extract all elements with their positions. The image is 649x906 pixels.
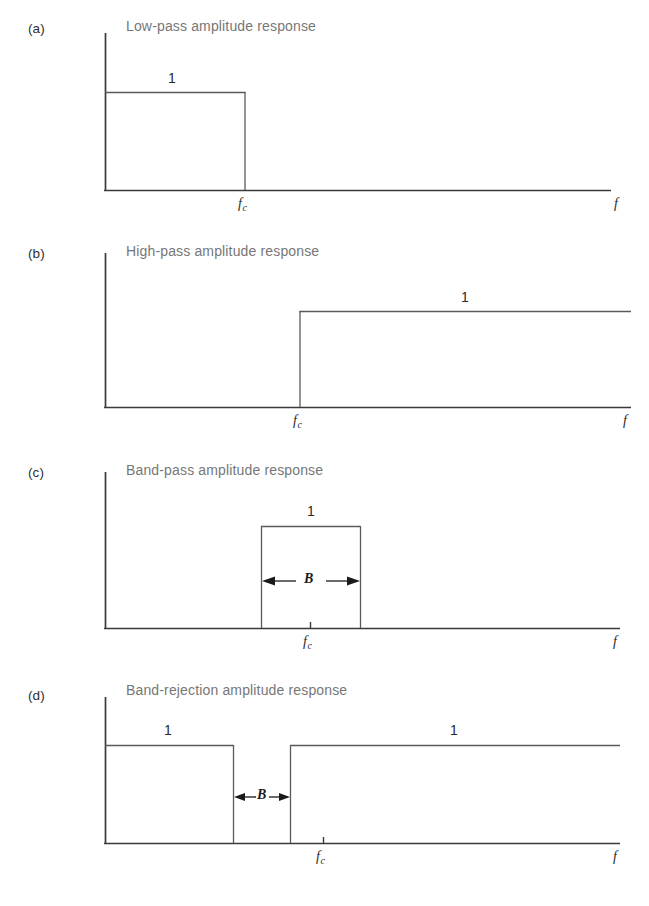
filter-response-figure: (a) Low-pass amplitude response 1 fc f (… xyxy=(0,0,649,906)
cutoff-label-b: fc xyxy=(293,413,302,430)
amplitude-label-d-right: 1 xyxy=(446,722,462,738)
cutoff-label-a: fc xyxy=(238,196,247,213)
cutoff-sub-a: c xyxy=(242,202,246,213)
panel-low-pass: (a) Low-pass amplitude response 1 fc f xyxy=(0,0,649,225)
plot-band-rejection xyxy=(0,675,649,906)
bandwidth-arrow-right-c xyxy=(326,577,360,586)
freq-axis-label-c: f xyxy=(613,634,617,650)
bandwidth-arrow-left-c xyxy=(262,577,296,586)
freq-axis-label-b: f xyxy=(623,413,627,429)
bandwidth-arrow-left-d xyxy=(234,793,256,801)
amplitude-label-c: 1 xyxy=(303,503,319,519)
cutoff-label-c: fc xyxy=(303,634,312,651)
panel-high-pass: (b) High-pass amplitude response 1 fc f xyxy=(0,225,649,450)
bandwidth-arrow-right-d xyxy=(269,793,290,801)
cutoff-sub-b: c xyxy=(297,419,301,430)
amplitude-label-a: 1 xyxy=(164,70,180,86)
panel-band-pass: (c) Band-pass amplitude response 1 xyxy=(0,450,649,675)
panel-band-rejection: (d) Band-rejection amplitude response xyxy=(0,675,649,906)
plot-band-pass xyxy=(0,450,649,675)
cutoff-label-d: fc xyxy=(316,849,325,866)
amplitude-label-d-left: 1 xyxy=(160,722,176,738)
cutoff-sub-d: c xyxy=(320,855,324,866)
freq-axis-label-d: f xyxy=(613,849,617,865)
cutoff-sub-c: c xyxy=(307,640,311,651)
bandwidth-label-c: B xyxy=(304,571,313,587)
plot-high-pass xyxy=(0,225,649,450)
freq-axis-label-a: f xyxy=(614,196,618,212)
plot-low-pass xyxy=(0,0,649,225)
amplitude-label-b: 1 xyxy=(457,289,473,305)
bandwidth-label-d: B xyxy=(257,787,266,803)
